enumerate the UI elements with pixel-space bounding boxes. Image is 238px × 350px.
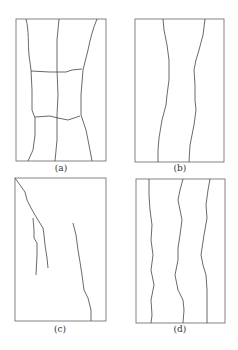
caption-c: (c) xyxy=(40,324,80,334)
caption-d: (d) xyxy=(160,324,200,334)
panel-b-cracks xyxy=(158,19,205,162)
panel-c-cracks xyxy=(15,178,91,321)
caption-b: (b) xyxy=(160,163,200,173)
crack-patterns-figure xyxy=(0,0,238,350)
panel-c-frame xyxy=(15,178,106,321)
panel-b-frame xyxy=(135,19,224,162)
panel-a-frame xyxy=(16,19,106,161)
panel-a-cracks xyxy=(26,19,97,161)
caption-a: (a) xyxy=(41,163,81,173)
panel-d-cracks xyxy=(149,179,210,323)
